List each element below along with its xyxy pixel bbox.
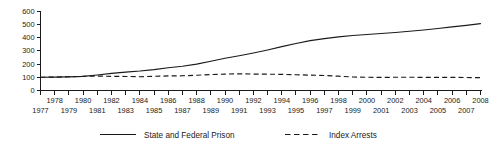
x-tick-label-upper: 1982 — [103, 96, 119, 105]
chart-legend: State and Federal PrisonIndex Arrests — [100, 131, 377, 140]
x-tick-label-upper: 2002 — [387, 96, 403, 105]
x-tick-label-upper: 1978 — [46, 96, 62, 105]
x-tick-label-lower: 1999 — [345, 106, 361, 115]
x-axis: 1978198019821984198619881990199219941996… — [32, 91, 488, 116]
legend-label: Index Arrests — [329, 131, 377, 140]
x-tick-label-lower: 2001 — [373, 106, 389, 115]
series-line-state-and-federal-prison — [41, 24, 481, 78]
line-chart: 0100200300400500600 19781980198219841986… — [0, 0, 492, 146]
x-tick-label-upper: 1984 — [132, 96, 148, 105]
y-tick-label: 100 — [22, 73, 34, 82]
x-tick-label-lower: 1981 — [89, 106, 105, 115]
x-tick-label-upper: 1996 — [302, 96, 318, 105]
x-tick-label-upper: 1990 — [217, 96, 233, 105]
data-series-group — [41, 24, 481, 78]
x-tick-label-upper: 1986 — [160, 96, 176, 105]
y-tick-label: 500 — [22, 20, 34, 29]
x-tick-label-upper: 1988 — [188, 96, 204, 105]
y-tick-label: 0 — [30, 86, 34, 95]
x-tick-label-lower: 1991 — [231, 106, 247, 115]
legend-label: State and Federal Prison — [144, 131, 235, 140]
x-tick-label-lower: 1993 — [259, 106, 275, 115]
x-tick-label-lower: 2005 — [430, 106, 446, 115]
x-tick-label-upper: 1998 — [330, 96, 346, 105]
x-tick-label-upper: 1994 — [274, 96, 290, 105]
x-tick-label-upper: 2004 — [415, 96, 431, 105]
x-tick-label-lower: 1995 — [288, 106, 304, 115]
x-tick-label-upper: 1980 — [75, 96, 91, 105]
y-tick-label: 600 — [22, 7, 34, 16]
x-tick-label-lower: 2007 — [458, 106, 474, 115]
x-tick-label-lower: 1979 — [61, 106, 77, 115]
y-axis: 0100200300400500600 — [22, 7, 40, 96]
x-tick-label-lower: 1983 — [117, 106, 133, 115]
x-tick-label-lower: 1985 — [146, 106, 162, 115]
x-tick-label-upper: 2000 — [359, 96, 375, 105]
x-tick-label-upper: 2008 — [472, 96, 488, 105]
chart-canvas: 0100200300400500600 19781980198219841986… — [0, 0, 492, 146]
x-tick-label-lower: 1987 — [174, 106, 190, 115]
x-tick-label-upper: 2006 — [444, 96, 460, 105]
y-tick-label: 300 — [22, 46, 34, 55]
x-tick-label-lower: 1997 — [316, 106, 332, 115]
x-tick-label-upper: 1992 — [245, 96, 261, 105]
y-tick-label: 400 — [22, 33, 34, 42]
x-tick-label-lower: 2003 — [401, 106, 417, 115]
y-tick-label: 200 — [22, 60, 34, 69]
x-tick-label-lower: 1989 — [203, 106, 219, 115]
x-tick-label-lower: 1977 — [32, 106, 48, 115]
